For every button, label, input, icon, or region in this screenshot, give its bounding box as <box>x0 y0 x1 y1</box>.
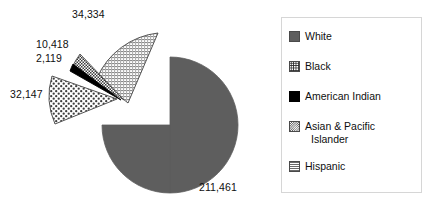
legend-item-black: Black <box>289 60 331 73</box>
legend-label-asian-pacific-line1: Asian & Pacific <box>305 120 375 132</box>
legend-swatch-checker-icon <box>289 121 300 132</box>
legend-swatch-hatch-icon <box>289 161 300 172</box>
pie-chart-figure: 211,461 34,334 10,418 2,119 32,147 White… <box>0 0 431 211</box>
pie-slice-white <box>170 57 238 193</box>
legend-swatch-solid-black-icon <box>289 91 300 102</box>
legend-swatch-solid-gray-icon <box>289 31 300 42</box>
data-label-hispanic: 34,334 <box>72 8 105 20</box>
pie-slice-white-fill-lower <box>102 125 170 193</box>
legend-swatch-dotted-icon <box>289 61 300 72</box>
legend-label-asian-pacific-islander: Asian & Pacific Islander <box>305 120 375 145</box>
legend-label-asian-pacific-line2: Islander <box>305 133 375 146</box>
legend-label-hispanic: Hispanic <box>305 160 345 173</box>
legend-label-black: Black <box>305 60 331 73</box>
data-label-american-indian: 2,119 <box>36 52 62 64</box>
data-label-asian-pacific-islander: 10,418 <box>36 38 69 50</box>
legend-item-white: White <box>289 30 332 43</box>
legend-item-hispanic: Hispanic <box>289 160 345 173</box>
data-label-black: 32,147 <box>10 88 43 100</box>
legend-label-american-indian: American Indian <box>305 90 381 103</box>
pie-slice-hispanic <box>97 33 158 103</box>
data-label-white: 211,461 <box>199 181 237 193</box>
legend-label-white: White <box>305 30 332 43</box>
chart-legend: White Black American Indian Asian & Paci… <box>281 17 422 193</box>
legend-item-american-indian: American Indian <box>289 90 381 103</box>
legend-item-asian-pacific-islander: Asian & Pacific Islander <box>289 120 375 145</box>
